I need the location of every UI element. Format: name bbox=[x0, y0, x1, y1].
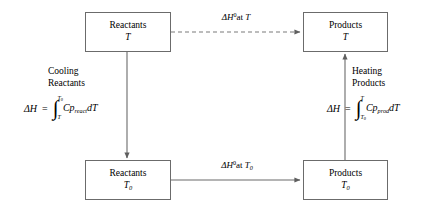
annotation-cooling-reactants: Cooling Reactants bbox=[48, 66, 85, 90]
node-reactants-T[interactable]: Reactants T bbox=[85, 12, 171, 52]
node-reactants-T0-label: Reactants bbox=[110, 168, 147, 180]
annotation-cooling-line2: Reactants bbox=[48, 78, 85, 90]
formula-cooling-integrand-subscript: react bbox=[75, 107, 87, 114]
formula-heating-differential: dT bbox=[389, 102, 400, 113]
formula-heating-lower-limit: T0 bbox=[361, 114, 366, 121]
node-reactants-T0[interactable]: Reactants T0 bbox=[85, 160, 171, 200]
formula-cooling-lower-limit: T bbox=[58, 114, 63, 121]
node-products-T-label: Products bbox=[329, 20, 362, 32]
edge-label-top-temperature: T bbox=[245, 12, 250, 22]
formula-heating-upper-limit: T bbox=[361, 95, 366, 102]
formula-cooling-lhs: ΔH bbox=[24, 103, 37, 114]
node-products-T0-temp-subscript: 0 bbox=[347, 184, 350, 191]
formula-cooling-upper-limit: T0 bbox=[58, 95, 63, 102]
node-reactants-T0-temp-subscript: 0 bbox=[129, 184, 132, 191]
formula-heating-equals: = bbox=[345, 103, 351, 114]
formula-cooling-integrand: CpreactdT bbox=[63, 102, 98, 114]
edge-label-top-reaction: ΔH0at T bbox=[200, 12, 272, 22]
annotation-heating-line2: Products bbox=[352, 78, 385, 90]
hess-law-cycle-diagram: Reactants T Products T Reactants T0 Prod… bbox=[0, 0, 448, 212]
formula-cooling-reactants: ΔH = ∫ T0 T CpreactdT bbox=[24, 98, 98, 118]
node-products-T-temp-symbol: T bbox=[343, 32, 348, 42]
node-reactants-T-temperature: T bbox=[125, 32, 130, 44]
node-reactants-T0-temperature: T0 bbox=[124, 180, 133, 192]
node-reactants-T-label: Reactants bbox=[110, 20, 147, 32]
formula-cooling-differential: dT bbox=[87, 102, 98, 113]
edge-label-bottom-at: at bbox=[236, 160, 243, 170]
edge-label-top-at: at bbox=[237, 12, 244, 22]
formula-heating-integral: ∫ T T0 CpproddT bbox=[356, 98, 400, 118]
edge-label-bottom-delta: ΔH bbox=[221, 160, 233, 170]
node-products-T0-temperature: T0 bbox=[341, 180, 350, 192]
formula-cooling-equals: = bbox=[42, 103, 48, 114]
formula-heating-integrand-subscript: prod bbox=[378, 107, 389, 114]
formula-cooling-integral: ∫ T0 T CpreactdT bbox=[53, 98, 98, 118]
formula-heating-integrand: CpproddT bbox=[366, 102, 400, 114]
annotation-heating-line1: Heating bbox=[352, 66, 385, 78]
edge-label-top-delta: ΔH bbox=[222, 12, 234, 22]
node-products-T-temperature: T bbox=[343, 32, 348, 44]
edge-label-bottom-reaction: ΔH0at T0 bbox=[198, 160, 276, 171]
annotation-cooling-line1: Cooling bbox=[48, 66, 85, 78]
formula-heating-products: ΔH = ∫ T T0 CpproddT bbox=[327, 98, 400, 118]
formula-heating-lhs: ΔH bbox=[327, 103, 340, 114]
node-products-T0-label: Products bbox=[329, 168, 362, 180]
node-products-T0[interactable]: Products T0 bbox=[303, 160, 388, 200]
edge-label-bottom-temperature-subscript: 0 bbox=[250, 165, 253, 171]
annotation-heating-products: Heating Products bbox=[352, 66, 385, 90]
node-products-T[interactable]: Products T bbox=[303, 12, 388, 52]
node-reactants-T-temp-symbol: T bbox=[125, 32, 130, 42]
